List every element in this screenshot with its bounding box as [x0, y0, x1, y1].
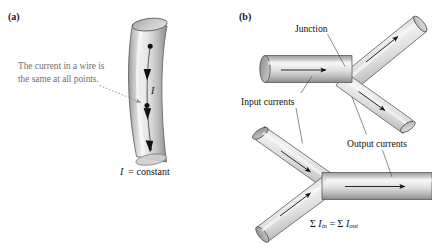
bottom-input-lower-arrow: [280, 193, 311, 216]
top-output-lower-arrow: [359, 92, 386, 111]
top-output-upper-arrow: [366, 37, 398, 63]
input-leader-top: [301, 76, 312, 93]
wire-highlight: [138, 27, 145, 158]
top-output-lower-cap: [399, 119, 417, 135]
top-input-body: [265, 56, 352, 83]
annotation-leader-a: [100, 86, 142, 103]
panel-label-b: (b): [239, 11, 251, 22]
top-input-cap: [260, 56, 270, 83]
bottom-input-upper-body: [256, 127, 333, 189]
input-currents-label: Input currents: [241, 96, 295, 107]
panel-a-annotation: The current in a wire is the same at all…: [18, 60, 113, 85]
wire-point-upper: [148, 44, 153, 49]
panel-a-current-symbol: I: [120, 166, 123, 177]
bottom-input-lower-cap: [254, 225, 272, 243]
bottom-input-lower-body: [257, 177, 336, 242]
wire-current-path: [147, 47, 151, 151]
panel-b-equation: Σ Iin = Σ Iout: [310, 218, 358, 229]
panel-label-a: (a): [8, 11, 20, 22]
wire-arrow-2: [144, 108, 152, 120]
bottom-input-upper-highlight: [263, 133, 328, 178]
panel-a-equation-text: = constant: [126, 166, 170, 177]
top-output-upper-highlight: [352, 24, 416, 76]
bottom-input-upper-cap: [251, 125, 270, 141]
output-leader-bottom: [383, 150, 393, 177]
wire-body: [129, 25, 167, 163]
figure-current-junction: (a) The current in a wire is the same at…: [0, 0, 432, 243]
wire-top-cap: [131, 17, 167, 33]
wire-bottom-cap: [135, 152, 167, 167]
input-leader-bottom: [296, 108, 303, 144]
output-currents-label: Output currents: [347, 138, 407, 149]
bottom-output-body: [322, 173, 432, 200]
top-output-upper-body: [346, 17, 427, 88]
panel-b-top-junction: [260, 14, 429, 134]
bottom-input-upper-arrow: [281, 151, 311, 172]
top-output-upper-cap: [411, 14, 429, 33]
panel-a-wire: [100, 17, 168, 168]
subscript-out: out: [349, 222, 358, 229]
top-output-lower-body: [336, 72, 413, 134]
figure-artwork: [0, 0, 432, 243]
top-output-lower-highlight: [344, 79, 407, 124]
junction-leader: [328, 34, 346, 67]
wire-point-lower: [145, 103, 150, 108]
panel-a-wire-current-label: I: [151, 85, 154, 96]
wire-arrow-1: [144, 69, 152, 81]
output-leader-top: [352, 97, 367, 135]
panel-a-equation: I = constant: [120, 166, 170, 177]
wire-arrow-3: [146, 140, 154, 152]
junction-label: Junction: [295, 23, 328, 34]
